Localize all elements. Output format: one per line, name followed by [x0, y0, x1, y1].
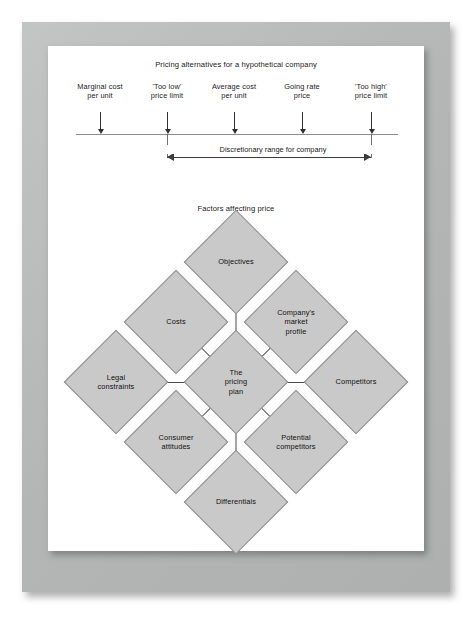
- diamond-label-pricing-plan: The pricing plan: [193, 368, 279, 396]
- price-tick-arrow-1: [167, 112, 168, 129]
- diamond-label-company-profile: Company's market profile: [253, 308, 339, 336]
- diamond-label-differentials: Differentials: [193, 497, 279, 506]
- price-axis-line: [76, 134, 398, 135]
- diamond-label-costs: Costs: [133, 317, 219, 326]
- price-tick-label-3: Going rate price: [267, 82, 337, 100]
- pricing-scale-figure: Pricing alternatives for a hypothetical …: [48, 46, 424, 196]
- price-tick-arrow-0: [100, 112, 101, 129]
- factors-diamond-figure: Factors affecting price ObjectivesCostsC…: [48, 196, 424, 551]
- price-tick-arrow-2: [234, 112, 235, 129]
- range-line: [167, 157, 371, 158]
- page-frame: Pricing alternatives for a hypothetical …: [22, 22, 450, 592]
- price-tick-label-0: Marginal cost per unit: [65, 82, 135, 100]
- diamond-label-legal-constraints: Legal constraints: [73, 373, 159, 392]
- price-tick-label-1: 'Too low' price limit: [132, 82, 202, 100]
- price-tick-arrow-3: [302, 112, 303, 129]
- diamond-label-competitors: Competitors: [313, 377, 399, 386]
- price-tick-label-4: 'Too high' price limit: [336, 82, 406, 100]
- price-tick-label-2: Average cost per unit: [199, 82, 269, 100]
- discretionary-range-label: Discretionary range for company: [167, 145, 379, 154]
- pricing-scale-title: Pricing alternatives for a hypothetical …: [48, 60, 424, 69]
- diamond-label-consumer-attitudes: Consumer attitudes: [133, 433, 219, 452]
- diamond-label-potential-competitors: Potential competitors: [253, 433, 339, 452]
- price-tick-arrow-4: [371, 112, 372, 129]
- page-sheet: Pricing alternatives for a hypothetical …: [48, 46, 424, 551]
- diamond-label-objectives: Objectives: [193, 257, 279, 266]
